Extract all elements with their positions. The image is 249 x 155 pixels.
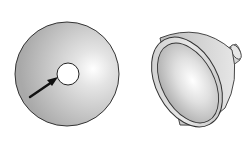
disc: [15, 22, 119, 126]
center-hole: [57, 63, 79, 85]
figure: [0, 0, 249, 155]
reflector-dish: [137, 25, 243, 139]
illustration: [0, 0, 249, 155]
